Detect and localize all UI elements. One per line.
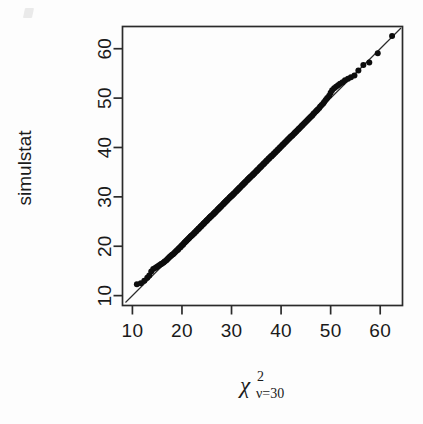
x-axis-title-subscript: ν=30 xyxy=(256,386,284,401)
y-tick-label-10: 10 xyxy=(94,285,115,307)
data-point xyxy=(375,50,381,56)
y-axis-tick-labels: 102030405060 xyxy=(94,38,115,307)
x-axis-title-chi: χ xyxy=(238,373,251,398)
x-axis-tick-labels: 102030405060 xyxy=(122,320,392,341)
x-tick-label-60: 60 xyxy=(369,320,391,341)
y-tick-label-40: 40 xyxy=(94,137,115,159)
x-axis-title: χ 2 ν=30 xyxy=(238,369,284,401)
x-tick-label-20: 20 xyxy=(171,320,193,341)
x-tick-label-30: 30 xyxy=(221,320,243,341)
y-tick-label-60: 60 xyxy=(94,38,115,60)
data-point xyxy=(389,33,395,39)
qq-scatter-points xyxy=(134,33,395,287)
data-point xyxy=(351,72,357,78)
data-point xyxy=(366,60,372,66)
data-point xyxy=(355,67,361,73)
plot-canvas: 102030405060 102030405060 simulstat χ 2 … xyxy=(0,0,423,424)
x-tick-label-10: 10 xyxy=(122,320,144,341)
y-tick-label-30: 30 xyxy=(94,186,115,208)
data-point xyxy=(360,62,366,68)
y-axis-tick-marks xyxy=(114,49,123,296)
qq-plot-figure: 102030405060 102030405060 simulstat χ 2 … xyxy=(0,0,423,424)
y-tick-label-20: 20 xyxy=(94,235,115,257)
x-tick-label-40: 40 xyxy=(270,320,292,341)
y-axis-title: simulstat xyxy=(14,130,35,206)
y-tick-label-50: 50 xyxy=(94,87,115,109)
x-axis-tick-marks xyxy=(132,306,380,315)
x-axis-title-superscript: 2 xyxy=(257,369,264,384)
x-tick-label-50: 50 xyxy=(320,320,342,341)
